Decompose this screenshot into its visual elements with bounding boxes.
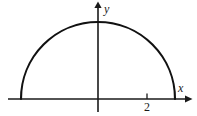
y-axis-arrow-icon (94, 2, 101, 9)
y-axis-label: y (103, 2, 110, 16)
x-axis-arrow-icon (185, 95, 193, 102)
math-figure-semicircle: y x 2 (0, 0, 197, 116)
coordinate-plane-svg: y x 2 (0, 0, 197, 116)
x-tick-label-2: 2 (144, 100, 150, 114)
x-axis-label: x (177, 81, 184, 95)
